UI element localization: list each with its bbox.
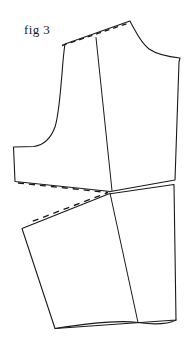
figure-caption: fig 3 — [24, 22, 50, 38]
figure-container: fig 3 — [0, 0, 189, 353]
pattern-drawing — [0, 0, 189, 353]
